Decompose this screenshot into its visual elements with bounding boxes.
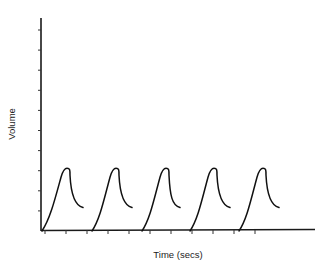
waveform-cycle [239,168,279,231]
waveform-cycle [92,168,132,231]
x-axis [41,230,315,235]
volume-waveforms [42,168,279,231]
waveform-cycle [142,168,180,231]
waveform-cycle [190,168,230,231]
y-axis [38,18,41,231]
waveform-cycle [42,168,83,231]
volume-time-chart: Time (secs) Volume [0,0,327,268]
y-axis-label: Volume [6,108,17,140]
x-axis-label: Time (secs) [153,249,202,260]
